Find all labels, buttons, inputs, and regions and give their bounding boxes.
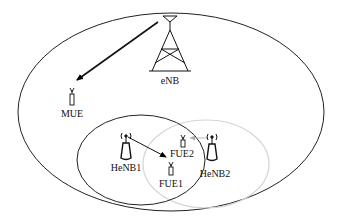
- henb1-to-fue1-link: [128, 137, 166, 157]
- fue2-phone-icon: [181, 135, 185, 147]
- henb2-label: HeNB2: [200, 168, 231, 179]
- enb-to-mue-link: [77, 22, 158, 80]
- fue2-label: FUE2: [170, 148, 194, 159]
- femtocell-1-region: [77, 115, 205, 205]
- henb1-femto-icon: [121, 133, 131, 160]
- fue1-phone-icon: [169, 162, 173, 175]
- henb1-label: HeNB1: [111, 162, 142, 173]
- fue1-label: FUE1: [159, 178, 183, 189]
- network-diagram: eNB MUE HeNB1 FUE1 FUE2: [0, 0, 342, 224]
- femtocell-2-region: [143, 120, 269, 208]
- mue-label: MUE: [61, 108, 83, 119]
- mue-phone-icon: [70, 88, 74, 105]
- enb-label: eNB: [161, 75, 180, 86]
- henb2-femto-icon: [207, 134, 217, 161]
